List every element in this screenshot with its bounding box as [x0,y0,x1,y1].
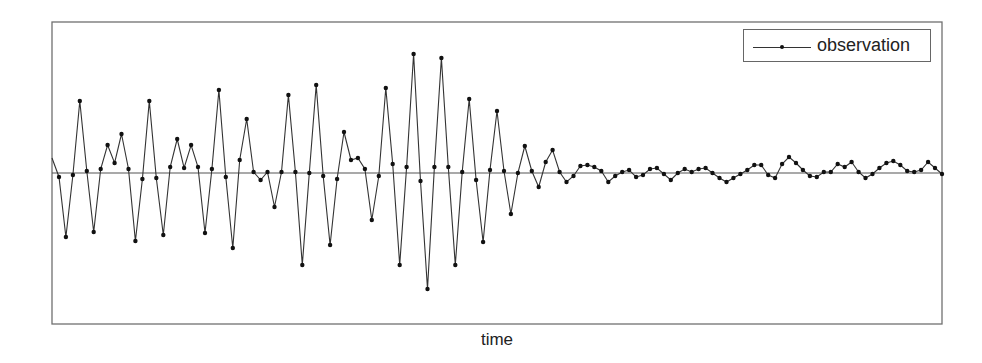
data-point-marker [613,174,617,178]
data-point-marker [495,109,499,113]
data-point-marker [258,178,262,182]
data-point-marker [398,263,402,267]
data-point-marker [328,243,332,247]
data-point-marker [453,263,457,267]
data-point-marker [509,212,513,216]
data-point-marker [592,165,596,169]
data-point-marker [738,172,742,176]
data-point-marker [105,143,109,147]
data-point-marker [474,178,478,182]
data-point-marker [245,117,249,121]
data-point-marker [676,171,680,175]
data-point-marker [690,170,694,174]
data-point-marker [488,168,492,172]
data-point-marker [655,166,659,170]
data-point-marker [877,166,881,170]
data-point-marker [189,143,193,147]
data-point-marker [703,166,707,170]
data-point-marker [599,169,603,173]
data-point-marker [662,172,666,176]
data-point-marker [710,171,714,175]
data-point-marker [502,169,506,173]
legend: observation [743,29,931,62]
data-point-marker [745,168,749,172]
data-point-marker [891,159,895,163]
data-point-marker [467,97,471,101]
data-point-marker [564,180,568,184]
data-point-marker [787,155,791,159]
data-point-marker [544,160,548,164]
data-point-marker [314,83,318,87]
data-point-marker [863,176,867,180]
data-point-marker [231,246,235,250]
data-point-marker [126,167,130,171]
data-point-marker [620,170,624,174]
data-point-marker [85,169,89,173]
data-point-marker [481,240,485,244]
data-point-marker [683,167,687,171]
data-point-marker [578,164,582,168]
legend-marker-icon [780,45,784,49]
data-point-marker [780,162,784,166]
data-point-marker [641,173,645,177]
data-point-marker [530,169,534,173]
data-point-marker [752,163,756,167]
data-point-marker [815,175,819,179]
data-point-marker [217,88,221,92]
data-point-marker [773,176,777,180]
data-point-marker [384,86,388,90]
legend-label: observation [817,35,910,55]
data-point-marker [606,180,610,184]
data-point-marker [210,167,214,171]
data-point-marker [940,172,944,176]
data-point-marker [238,158,242,162]
data-point-marker [175,137,179,141]
data-point-marker [731,176,735,180]
data-point-marker [537,185,541,189]
data-point-marker [251,170,255,174]
data-point-marker [439,56,443,60]
data-point-marker [112,161,116,165]
data-point-marker [154,176,158,180]
data-point-marker [168,165,172,169]
data-point-marker [182,166,186,170]
data-point-marker [391,162,395,166]
x-axis-label: time [0,330,982,350]
data-point-marker [147,99,151,103]
data-point-marker [342,130,346,134]
data-point-marker [133,239,137,243]
data-point-marker [822,170,826,174]
data-point-marker [849,160,853,164]
data-point-marker [279,170,283,174]
data-point-marker [321,174,325,178]
data-point-marker [92,230,96,234]
data-point-marker [829,170,833,174]
data-point-marker [856,170,860,174]
data-point-marker [696,167,700,171]
data-point-marker [919,168,923,172]
data-point-marker [912,170,916,174]
data-point-marker [349,158,353,162]
data-point-marker [425,287,429,291]
data-point-marker [766,173,770,177]
data-point-marker [669,178,673,182]
data-point-marker [363,167,367,171]
data-point-marker [634,175,638,179]
data-point-marker [99,167,103,171]
data-point-marker [64,235,68,239]
data-point-marker [71,173,75,177]
data-point-marker [286,93,290,97]
data-point-marker [516,171,520,175]
data-point-marker [370,218,374,222]
data-point-marker [78,99,82,103]
data-point-marker [843,165,847,169]
data-point-marker [161,233,165,237]
data-point-marker [432,165,436,169]
data-point-marker [293,170,297,174]
data-point-marker [585,163,589,167]
data-point-marker [808,174,812,178]
data-point-marker [933,166,937,170]
data-point-marker [884,161,888,165]
data-point-marker [905,169,909,173]
data-point-marker [140,177,144,181]
